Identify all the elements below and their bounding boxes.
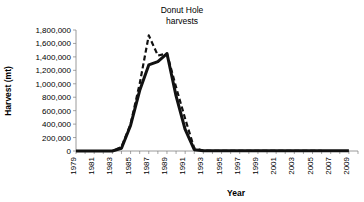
y-tick-label: 0 xyxy=(67,147,72,156)
x-tick-label: 1979 xyxy=(69,156,78,174)
y-axis-title: Harvest (mt) xyxy=(3,66,13,116)
y-tick-label: 1,200,000 xyxy=(35,66,71,75)
y-tick-label: 1,800,000 xyxy=(35,26,71,35)
y-tick-label: 1,600,000 xyxy=(35,39,71,48)
x-tick-label: 1991 xyxy=(178,156,187,174)
line-chart: Donut Hole harvests 0200,000400,000600,0… xyxy=(0,0,364,202)
x-tick-label: 1985 xyxy=(124,156,133,174)
x-tick-label: 1995 xyxy=(215,156,224,174)
x-tick-label: 2009 xyxy=(342,156,351,174)
x-tick-label: 2005 xyxy=(306,156,315,174)
y-tick-label: 200,000 xyxy=(42,134,71,143)
chart-container: Donut Hole harvests 0200,000400,000600,0… xyxy=(0,0,364,202)
y-axis-tick-marks xyxy=(73,30,76,151)
series-line-dashed-series xyxy=(76,35,322,151)
chart-title-group: Donut Hole harvests xyxy=(161,5,204,26)
series-line-solid-series xyxy=(76,54,349,151)
x-tick-label: 2001 xyxy=(269,156,278,174)
y-tick-label: 600,000 xyxy=(42,107,71,116)
y-tick-label: 400,000 xyxy=(42,120,71,129)
x-tick-label: 2003 xyxy=(287,156,296,174)
y-tick-label: 800,000 xyxy=(42,93,71,102)
x-tick-label: 1999 xyxy=(251,156,260,174)
x-tick-label: 1981 xyxy=(87,156,96,174)
x-axis-title: Year xyxy=(227,188,246,198)
y-axis-tick-labels: 0200,000400,000600,000800,0001,000,0001,… xyxy=(35,26,71,156)
x-tick-label: 1989 xyxy=(160,156,169,174)
x-tick-label: 1987 xyxy=(142,156,151,174)
x-tick-label: 1997 xyxy=(233,156,242,174)
x-axis-tick-labels: 1979198119831985198719891991199319951997… xyxy=(69,156,351,174)
x-tick-label: 2007 xyxy=(324,156,333,174)
y-tick-label: 1,000,000 xyxy=(35,80,71,89)
chart-title-line-1: Donut Hole xyxy=(161,5,204,15)
y-tick-label: 1,400,000 xyxy=(35,53,71,62)
data-series-group xyxy=(76,35,349,151)
chart-title-line-2: harvests xyxy=(166,16,198,26)
x-tick-label: 1983 xyxy=(105,156,114,174)
x-tick-label: 1993 xyxy=(196,156,205,174)
